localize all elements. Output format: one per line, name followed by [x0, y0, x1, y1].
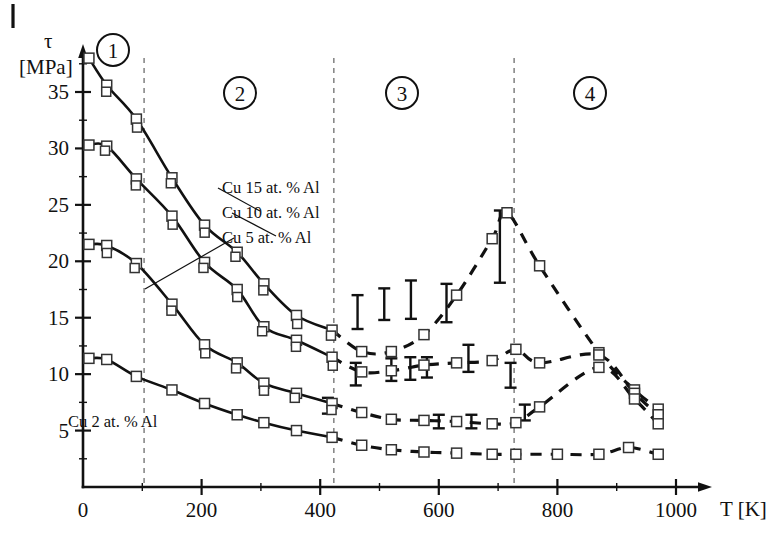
data-point-marker	[84, 353, 94, 363]
data-point-marker	[653, 449, 663, 459]
data-point-marker	[419, 447, 429, 457]
data-point-marker	[535, 358, 545, 368]
data-point-marker	[419, 330, 429, 340]
y-tick-label-20: 20	[48, 249, 69, 273]
data-point-marker	[327, 405, 336, 414]
data-point-marker	[357, 408, 367, 418]
data-point-marker	[130, 264, 139, 273]
data-point-marker	[131, 371, 141, 381]
data-point-marker	[487, 356, 497, 366]
data-point-marker	[487, 449, 497, 459]
data-point-marker	[327, 432, 337, 442]
data-point-marker	[231, 252, 240, 261]
data-point-marker	[594, 449, 604, 459]
data-point-marker	[386, 414, 396, 424]
data-point-marker	[102, 248, 111, 257]
y-axis-unit: [MPa]	[19, 55, 73, 79]
data-point-marker	[502, 208, 512, 218]
x-tick-label-600: 600	[423, 498, 455, 522]
data-point-marker	[386, 366, 396, 376]
data-point-marker	[232, 410, 242, 420]
x-tick-label-1000: 1000	[655, 498, 697, 522]
series-label-cu15: Cu 15 at. % Al	[222, 178, 320, 197]
data-point-marker	[102, 354, 112, 364]
data-point-marker	[552, 449, 562, 459]
figure-container: 5101520253035 02004006008001000 τ [MPa] …	[0, 0, 777, 552]
series-label-cu5: Cu 5 at. % Al	[222, 228, 312, 247]
data-point-marker	[200, 398, 210, 408]
data-point-marker	[328, 361, 337, 370]
data-point-marker	[487, 234, 497, 244]
data-point-marker	[487, 419, 497, 429]
data-point-marker	[259, 386, 268, 395]
data-point-marker	[101, 146, 110, 155]
region-number-1: 1	[108, 39, 119, 63]
y-tick-label-30: 30	[48, 136, 69, 160]
data-point-marker	[326, 331, 335, 340]
series-label-cu10: Cu 10 at. % Al	[222, 203, 320, 222]
data-point-marker	[357, 367, 367, 377]
data-point-marker	[131, 181, 140, 190]
data-point-marker	[653, 419, 663, 429]
data-point-marker	[386, 445, 396, 455]
y-axis-symbol: τ	[44, 29, 52, 53]
y-tick-label-15: 15	[48, 306, 69, 330]
region-number-4: 4	[585, 82, 596, 106]
data-point-marker	[290, 393, 299, 402]
data-point-marker	[535, 402, 545, 412]
data-point-marker	[357, 440, 367, 450]
data-point-marker	[168, 220, 177, 229]
x-tick-label-200: 200	[186, 498, 218, 522]
data-point-marker	[293, 319, 302, 328]
data-point-marker	[629, 394, 639, 404]
data-point-marker	[624, 443, 634, 453]
data-point-marker	[511, 418, 521, 428]
data-point-marker	[259, 286, 268, 295]
data-point-marker	[357, 347, 367, 357]
data-point-marker	[84, 53, 94, 63]
x-tick-label-800: 800	[542, 498, 574, 522]
data-point-marker	[102, 87, 111, 96]
data-point-marker	[200, 228, 209, 237]
data-point-marker	[452, 417, 462, 427]
data-point-marker	[386, 347, 396, 357]
data-point-marker	[291, 426, 301, 436]
data-point-marker	[166, 179, 175, 188]
x-axis-label: T [K]	[720, 497, 767, 521]
data-point-marker	[167, 306, 176, 315]
stress-temperature-chart: 5101520253035 02004006008001000 τ [MPa] …	[0, 0, 777, 552]
data-point-marker	[291, 342, 300, 351]
data-point-marker	[167, 385, 177, 395]
data-point-marker	[535, 261, 545, 271]
data-point-marker	[419, 415, 429, 425]
y-tick-label-35: 35	[48, 80, 69, 104]
data-point-marker	[258, 327, 267, 336]
data-point-marker	[84, 239, 94, 249]
y-tick-label-25: 25	[48, 193, 69, 217]
data-point-marker	[452, 448, 462, 458]
data-point-marker	[594, 362, 604, 372]
data-point-marker	[199, 263, 208, 272]
data-point-marker	[84, 140, 94, 150]
region-number-2: 2	[235, 82, 246, 106]
data-point-marker	[511, 344, 521, 354]
data-point-marker	[594, 350, 604, 360]
data-point-marker	[452, 290, 462, 300]
data-point-marker	[233, 293, 242, 302]
data-point-marker	[133, 123, 142, 132]
data-point-marker	[201, 349, 210, 358]
x-tick-label-0: 0	[78, 498, 89, 522]
series-label-cu2: Cu 2 at. % Al	[68, 412, 158, 431]
region-number-3: 3	[397, 82, 408, 106]
y-tick-label-10: 10	[48, 362, 69, 386]
data-point-marker	[452, 358, 462, 368]
data-point-marker	[259, 418, 269, 428]
data-point-marker	[419, 360, 429, 370]
x-tick-label-400: 400	[304, 498, 336, 522]
data-point-marker	[511, 449, 521, 459]
data-point-marker	[232, 364, 241, 373]
